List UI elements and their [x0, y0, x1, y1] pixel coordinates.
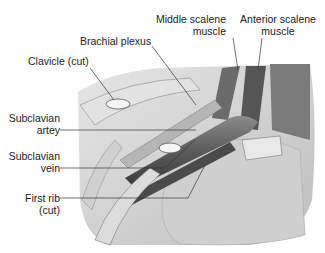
- label-clavicle: Clavicle (cut): [28, 55, 89, 67]
- label-subclavian-artery: Subclavian artey: [2, 112, 60, 136]
- label-brachial-plexus: Brachial plexus: [80, 35, 151, 47]
- label-anterior-scalene: Anterior scalene muscle: [238, 13, 318, 37]
- first-rib-cut-icon: [159, 143, 181, 153]
- label-subclavian-vein: Subclavian vein: [2, 150, 60, 174]
- label-first-rib: First rib (cut): [2, 192, 60, 216]
- neck-muscles: [270, 64, 310, 140]
- clavicle-cut-icon: [106, 99, 130, 109]
- label-middle-scalene: Middle scalene muscle: [150, 13, 226, 37]
